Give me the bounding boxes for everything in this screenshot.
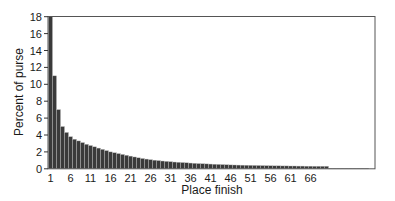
x-tick-label: 11 bbox=[85, 172, 96, 184]
bars bbox=[49, 17, 369, 169]
bar-place-36 bbox=[189, 163, 193, 169]
bar-place-40 bbox=[205, 164, 209, 169]
y-tick-label: 6 bbox=[36, 112, 42, 124]
bar-place-38 bbox=[197, 164, 201, 169]
y-tick-label: 12 bbox=[30, 61, 42, 73]
bar-place-25 bbox=[145, 159, 149, 169]
bar-place-24 bbox=[141, 158, 145, 168]
bar-place-41 bbox=[209, 164, 213, 169]
plot-frame bbox=[48, 17, 375, 169]
bar-place-32 bbox=[173, 162, 177, 169]
bar-place-42 bbox=[213, 164, 217, 169]
bar-place-51 bbox=[249, 165, 253, 168]
bar-place-19 bbox=[121, 154, 125, 168]
x-tick-label: 66 bbox=[304, 172, 316, 184]
bar-place-21 bbox=[129, 156, 133, 169]
bar-place-23 bbox=[137, 158, 141, 169]
bar-place-28 bbox=[157, 161, 161, 169]
bar-place-44 bbox=[221, 165, 225, 169]
bar-place-3 bbox=[57, 110, 61, 169]
bar-place-8 bbox=[77, 141, 81, 169]
bar-place-26 bbox=[149, 160, 153, 169]
bar-place-50 bbox=[245, 165, 249, 169]
bar-place-11 bbox=[89, 146, 93, 169]
bar-place-6 bbox=[69, 137, 73, 169]
y-tick-label: 0 bbox=[36, 163, 42, 175]
y-tick-label: 16 bbox=[30, 28, 42, 40]
y-tick-label: 2 bbox=[36, 146, 42, 158]
bar-place-17 bbox=[113, 153, 117, 169]
bar-place-12 bbox=[93, 147, 97, 169]
bar-place-39 bbox=[201, 164, 205, 169]
bar-place-43 bbox=[217, 164, 221, 168]
bar-place-49 bbox=[241, 165, 245, 169]
bar-place-33 bbox=[177, 162, 181, 169]
x-tick-label: 6 bbox=[67, 172, 73, 184]
x-tick-label: 26 bbox=[144, 172, 156, 184]
y-tick-label: 8 bbox=[36, 95, 42, 107]
bar-place-7 bbox=[73, 139, 77, 169]
bar-place-35 bbox=[185, 163, 189, 169]
bar-place-22 bbox=[133, 157, 137, 169]
bar-place-29 bbox=[161, 161, 165, 169]
bar-chart: 024681012141618 161116212631364146515661… bbox=[0, 0, 395, 201]
x-tick-label: 16 bbox=[104, 172, 116, 184]
bar-place-14 bbox=[101, 149, 105, 168]
x-tick-label: 61 bbox=[284, 172, 296, 184]
bar-place-37 bbox=[193, 163, 197, 168]
bar-place-4 bbox=[61, 127, 65, 169]
y-axis-label: Percent of purse bbox=[12, 48, 26, 136]
bar-place-31 bbox=[169, 162, 173, 169]
bar-place-52 bbox=[253, 165, 257, 168]
bar-place-16 bbox=[109, 152, 113, 169]
bar-place-27 bbox=[153, 160, 157, 169]
bar-place-20 bbox=[125, 155, 129, 169]
bar-place-13 bbox=[97, 148, 101, 169]
bar-place-30 bbox=[165, 161, 169, 168]
bar-place-48 bbox=[237, 165, 241, 169]
y-tick-label: 10 bbox=[30, 78, 42, 90]
y-tick-label: 4 bbox=[36, 129, 42, 141]
x-tick-label: 1 bbox=[47, 172, 53, 184]
bar-place-5 bbox=[65, 132, 69, 168]
y-tick-label: 14 bbox=[30, 45, 42, 57]
x-tick-label: 56 bbox=[264, 172, 276, 184]
y-tick-label: 18 bbox=[30, 11, 42, 23]
y-axis: 024681012141618 bbox=[30, 11, 48, 175]
x-tick-label: 31 bbox=[164, 172, 176, 184]
bar-place-34 bbox=[181, 163, 185, 169]
bar-place-1 bbox=[49, 17, 53, 169]
bar-place-10 bbox=[85, 144, 89, 169]
x-tick-label: 51 bbox=[244, 172, 256, 184]
bar-place-47 bbox=[233, 165, 237, 169]
bar-place-46 bbox=[229, 165, 233, 169]
bar-place-9 bbox=[81, 143, 85, 169]
bar-place-45 bbox=[225, 165, 229, 169]
x-axis-label: Place finish bbox=[181, 183, 242, 197]
bar-place-18 bbox=[117, 154, 121, 169]
bar-place-2 bbox=[53, 76, 57, 169]
bar-place-15 bbox=[105, 151, 109, 169]
x-tick-label: 21 bbox=[124, 172, 136, 184]
